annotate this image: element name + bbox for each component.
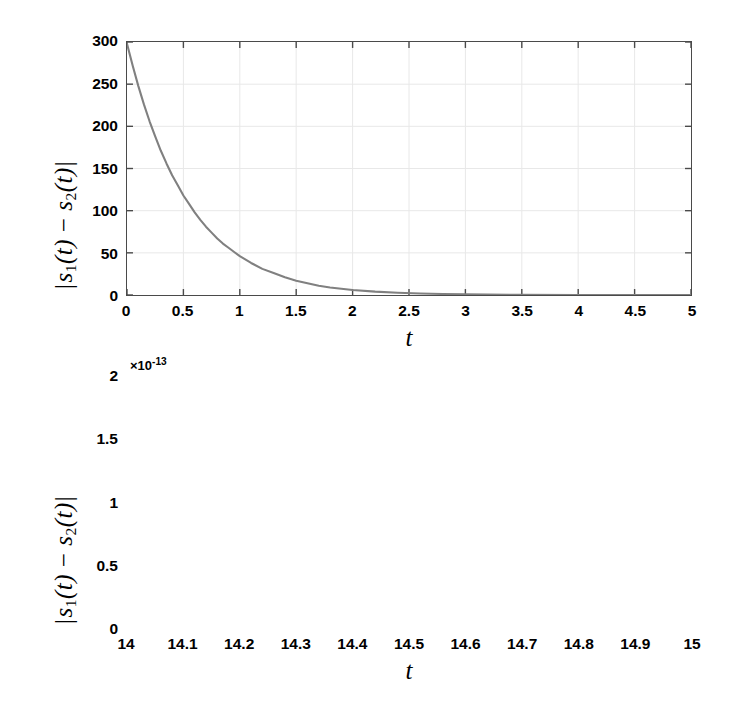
x-tick-label: 1: [209, 303, 269, 319]
x-tick-label: 2.5: [379, 303, 439, 319]
x-tick-label: 14.9: [605, 636, 665, 652]
y-tick-label: 2: [70, 368, 118, 384]
x-tick-label: 14.5: [379, 636, 439, 652]
x-tick-label: 5: [662, 303, 722, 319]
x-tick-label: 14.1: [153, 636, 213, 652]
x-tick-label: 3.5: [492, 303, 552, 319]
x-tick-label: 14.2: [209, 636, 269, 652]
x-tick-label: 2: [322, 303, 382, 319]
y-axis-exponent-label: ×10-13: [130, 357, 167, 372]
y-axis-label-top: |s1(t) − s2(t)|: [50, 160, 80, 290]
y-tick-label: 1: [70, 495, 118, 511]
y-tick-label: 0: [70, 288, 118, 304]
y-tick-label: 250: [70, 76, 118, 92]
y-tick-label: 200: [70, 118, 118, 134]
x-tick-label: 3: [436, 303, 496, 319]
x-tick-label: 14: [96, 636, 156, 652]
figure-container: |s1(t) − s2(t)| 050100150200250300 00.51…: [0, 0, 739, 715]
y-tick-label: 1.5: [70, 431, 118, 447]
y-tick-label: 0.5: [70, 558, 118, 574]
x-tick-label: 1.5: [266, 303, 326, 319]
x-tick-label: 14.3: [266, 636, 326, 652]
x-tick-label: 14.4: [322, 636, 382, 652]
chart-panel-top: |s1(t) − s2(t)| 050100150200250300 00.51…: [0, 0, 739, 358]
x-axis-label-bottom: t: [369, 658, 449, 683]
x-tick-label: 0: [96, 303, 156, 319]
x-tick-label: 4: [549, 303, 609, 319]
x-tick-label: 0.5: [153, 303, 213, 319]
y-tick-label: 100: [70, 203, 118, 219]
plot-area-top: [126, 41, 692, 296]
chart-panel-bottom: |s1(t) − s2(t)| ×10-13 00.511.52 1414.11…: [0, 340, 739, 715]
x-tick-label: 15: [662, 636, 722, 652]
y-tick-label: 300: [70, 33, 118, 49]
y-tick-label: 50: [70, 246, 118, 262]
plot-canvas-top: [127, 42, 691, 295]
y-tick-label: 0: [70, 621, 118, 637]
x-tick-label: 14.8: [549, 636, 609, 652]
x-tick-label: 4.5: [605, 303, 665, 319]
x-tick-label: 14.7: [492, 636, 552, 652]
y-tick-label: 150: [70, 161, 118, 177]
x-tick-label: 14.6: [436, 636, 496, 652]
